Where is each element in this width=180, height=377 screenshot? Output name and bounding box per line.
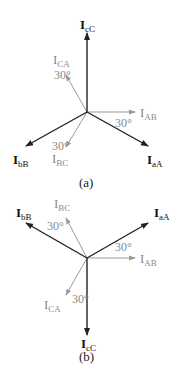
diagram-b: IbB IaA IcC IBC IAB ICA 30° 30° 30° (b) bbox=[16, 196, 170, 364]
phasor-diagrams: IcC IaA IbB ICA IAB IBC 30° 30° 30° (a) … bbox=[0, 0, 180, 377]
label-i-aa-a: IaA bbox=[147, 152, 163, 169]
label-i-bc-b: IBC bbox=[54, 196, 70, 213]
phasor-i-ca-b bbox=[66, 258, 87, 295]
label-i-bb-a: IbB bbox=[13, 152, 29, 169]
angle-label-a-3: 30° bbox=[52, 139, 69, 153]
label-i-cc-a: IcC bbox=[80, 17, 95, 34]
label-i-ca-b: ICA bbox=[44, 297, 61, 314]
angle-label-b-3: 30° bbox=[72, 292, 89, 306]
caption-b: (b) bbox=[79, 349, 94, 364]
caption-a: (a) bbox=[79, 175, 93, 190]
angle-label-b-1: 30° bbox=[47, 219, 64, 233]
angle-label-a-2: 30° bbox=[115, 116, 132, 130]
angle-label-b-2: 30° bbox=[115, 240, 132, 254]
label-i-bb-b: IbB bbox=[16, 205, 32, 222]
label-i-ab-b: IAB bbox=[140, 251, 157, 268]
label-i-ca-a: ICA bbox=[53, 52, 70, 69]
diagram-a: IcC IaA IbB ICA IAB IBC 30° 30° 30° (a) bbox=[13, 17, 163, 190]
label-i-bc-a: IBC bbox=[52, 151, 68, 168]
label-i-aa-b: IaA bbox=[154, 205, 170, 222]
label-i-ab-a: IAB bbox=[140, 105, 157, 122]
angle-label-a-1: 30° bbox=[54, 68, 71, 82]
